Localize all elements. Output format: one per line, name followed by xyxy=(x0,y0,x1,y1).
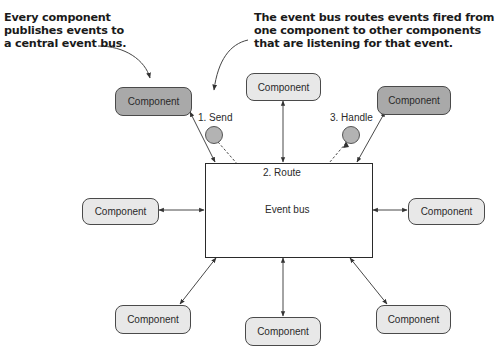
component-top-center: Component xyxy=(246,73,321,101)
component-bottom-center: Component xyxy=(245,317,321,346)
callout-left-curve xyxy=(98,46,150,78)
event-bus-label: Event bus xyxy=(265,204,309,215)
component-right: Component xyxy=(408,198,485,225)
callout-publish: Every component publishes events to a ce… xyxy=(4,11,126,50)
step-route-label: 2. Route xyxy=(263,167,301,178)
component-bottom-left: Component xyxy=(115,305,191,334)
callout-publish-line-3: a central event bus. xyxy=(4,37,126,50)
step-send-label: 1. Send xyxy=(198,112,232,123)
callout-publish-line-2: publishes events to xyxy=(4,24,126,37)
component-label: Component xyxy=(257,326,309,337)
event-bus-diagram: Every component publishes events to a ce… xyxy=(0,0,498,361)
component-bottom-right: Component xyxy=(376,305,451,334)
component-left: Component xyxy=(82,198,159,225)
component-label: Component xyxy=(258,82,310,93)
callout-route: The event bus routes events fired from o… xyxy=(254,11,494,50)
callout-route-line-2: one component to other components xyxy=(254,24,494,37)
component-label: Component xyxy=(128,96,180,107)
component-label: Component xyxy=(421,206,473,217)
step-handle-label: 3. Handle xyxy=(330,112,373,123)
callout-route-line-1: The event bus routes events fired from xyxy=(254,11,494,24)
component-top-left: Component xyxy=(115,87,192,116)
component-label: Component xyxy=(388,95,440,106)
callout-right-curve xyxy=(214,40,248,90)
handle-event-circle xyxy=(342,126,360,144)
component-label: Component xyxy=(127,314,179,325)
callout-route-line-3: that are listening for that event. xyxy=(254,37,494,50)
component-top-right: Component xyxy=(377,86,451,115)
callout-publish-line-1: Every component xyxy=(4,11,126,24)
send-event-circle xyxy=(205,126,223,144)
component-label: Component xyxy=(95,206,147,217)
component-label: Component xyxy=(388,314,440,325)
